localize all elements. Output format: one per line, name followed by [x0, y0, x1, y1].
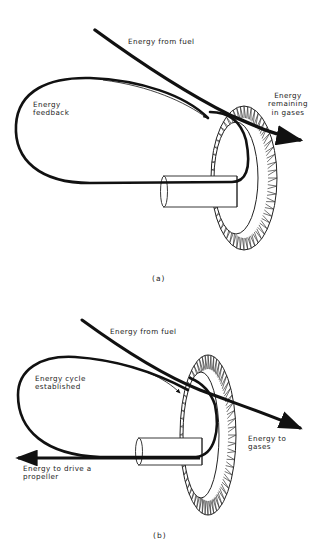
caption-b: (b): [153, 531, 167, 540]
label-energy-from-fuel-a: Energy from fuel: [128, 38, 194, 46]
label-line: propeller: [23, 473, 92, 481]
label-line: feedback: [33, 109, 69, 117]
label-line: established: [35, 383, 86, 391]
label-energy-feedback: Energy feedback: [33, 101, 69, 118]
label-energy-to-gases: Energy to gases: [248, 435, 286, 452]
label-line: gases: [248, 443, 286, 451]
panel-b: [18, 320, 300, 515]
label-energy-cycle: Energy cycle established: [35, 375, 86, 392]
label-energy-to-propeller: Energy to drive a propeller: [23, 465, 92, 482]
caption-a: (a): [152, 274, 165, 283]
panel-a: [16, 30, 300, 250]
shaft-icon: [161, 176, 238, 207]
turbine-wheel-icon: [180, 355, 236, 515]
shaft-icon: [136, 438, 203, 465]
label-energy-from-fuel-b: Energy from fuel: [110, 328, 176, 336]
label-energy-remaining: Energy remaining in gases: [268, 92, 308, 117]
label-line: in gases: [268, 109, 308, 117]
fuel-energy-arrow: [95, 30, 300, 140]
